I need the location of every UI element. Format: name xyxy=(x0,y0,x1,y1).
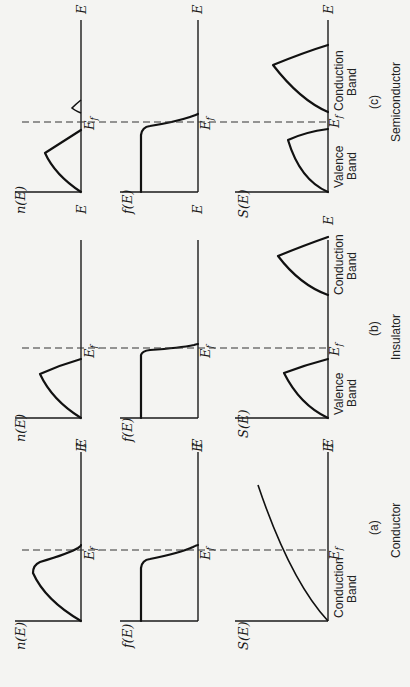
panel-tag: (a) xyxy=(367,520,381,535)
f-label: f(E) xyxy=(120,418,135,443)
fermi-distribution-curve xyxy=(141,344,198,418)
n-label: n(E) xyxy=(13,186,28,214)
energy-label-left: E xyxy=(321,215,336,226)
panel-insulator: n(E) Ef E f(E) Ef E S(E) Ef E Valence Ba… xyxy=(13,234,403,449)
panel-conductor: n(E) E Ef f(E) E Ef S(E) E Ef Conduction… xyxy=(13,442,403,650)
fermi-label: Ef xyxy=(198,116,215,132)
f-label: f(E) xyxy=(120,624,135,649)
valence-band-label-2: Band xyxy=(345,152,359,180)
s-label: S(E) xyxy=(236,621,251,650)
conduction-band-label-1: Conduction xyxy=(332,557,346,618)
conduction-band-curve xyxy=(273,45,328,112)
semiconductor-s-plot: S(E) E Ef E Valence Band Conduction Band… xyxy=(235,4,403,226)
energy-label: E xyxy=(190,442,205,453)
n-label: n(E) xyxy=(13,414,28,442)
fermi-label: Ef xyxy=(327,342,344,358)
conduction-band-label-1: Conduction xyxy=(332,50,346,111)
n-label: n(E) xyxy=(13,622,28,650)
panel-title: Conductor xyxy=(389,503,403,558)
valence-band-curve xyxy=(284,359,328,418)
panel-title: Insulator xyxy=(389,314,403,360)
insulator-n-plot: n(E) Ef E xyxy=(13,240,99,449)
valence-band-label-2: Band xyxy=(345,379,359,407)
panel-tag: (c) xyxy=(367,95,381,109)
energy-label: E xyxy=(74,442,89,453)
energy-label: E xyxy=(321,442,336,453)
energy-label-left: E xyxy=(190,204,205,215)
semiconductor-n-plot: E n(E) Ef E xyxy=(13,4,99,215)
energy-label: E xyxy=(321,4,336,15)
valence-density-curve xyxy=(40,359,81,418)
fermi-label: Ef xyxy=(82,116,99,132)
conduction-band-curve xyxy=(258,485,328,621)
fermi-label: Ef xyxy=(82,344,99,360)
fermi-distribution-curve xyxy=(141,545,198,621)
conduction-band-curve xyxy=(278,237,328,295)
panel-semiconductor: E n(E) Ef E f(E) E Ef E S(E) E Ef E Vale… xyxy=(13,4,403,226)
valence-density-curve xyxy=(45,130,81,192)
conduction-band-label-2: Band xyxy=(345,575,359,603)
energy-label-left: E xyxy=(74,204,89,215)
conduction-density-bump xyxy=(72,100,81,113)
fermi-label: Ef xyxy=(198,546,215,562)
fermi-label: Ef xyxy=(327,114,344,130)
f-label: f(E) xyxy=(120,190,135,215)
conductor-f-plot: f(E) E Ef xyxy=(120,442,215,649)
insulator-s-plot: S(E) Ef E Valence Band Conduction Band (… xyxy=(235,234,403,449)
fermi-label: Ef xyxy=(82,546,99,562)
energy-label: E xyxy=(190,4,205,15)
fermi-distribution-curve xyxy=(141,114,198,192)
conduction-band-label-2: Band xyxy=(345,68,359,96)
semiconductor-f-plot: f(E) E Ef E xyxy=(120,4,215,215)
band-theory-figure: E n(E) Ef E f(E) E Ef E S(E) E Ef E Vale… xyxy=(0,0,410,687)
conduction-band-label-2: Band xyxy=(345,252,359,280)
fermi-label: Ef xyxy=(198,344,215,360)
panel-title: Semiconductor xyxy=(389,62,403,142)
valence-band-label-1: Valence xyxy=(332,372,346,415)
energy-label: E xyxy=(74,4,89,15)
conduction-density-curve xyxy=(33,545,81,621)
s-label: S(E) xyxy=(236,409,251,438)
conductor-n-plot: n(E) E Ef xyxy=(13,442,99,650)
conductor-s-plot: S(E) E Ef Conduction Band (a) Conductor xyxy=(235,442,403,650)
panel-tag: (b) xyxy=(367,321,381,336)
valence-band-label-1: Valence xyxy=(332,145,346,188)
s-label: S(E) xyxy=(236,189,251,218)
valence-band-curve xyxy=(288,129,328,192)
insulator-f-plot: f(E) Ef E xyxy=(120,240,215,449)
conduction-band-label-1: Conduction xyxy=(332,234,346,295)
